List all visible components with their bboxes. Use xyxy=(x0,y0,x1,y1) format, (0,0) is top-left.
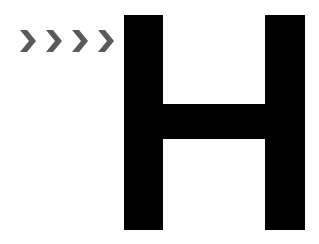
chevron-right-icon xyxy=(98,30,114,52)
chevron-right-icon xyxy=(46,30,62,52)
h-crossbar xyxy=(163,104,265,139)
chevron-right-icon xyxy=(20,30,36,52)
chevron-right-icon xyxy=(72,30,88,52)
h-left-stem xyxy=(124,15,163,230)
h-right-stem xyxy=(265,15,305,230)
letter-h-graphic: H xyxy=(124,15,305,230)
